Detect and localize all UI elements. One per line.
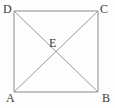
vertex-label-D: D [3, 3, 12, 15]
vertex-label-C: C [100, 3, 108, 15]
vertex-label-B: B [102, 92, 110, 104]
vertex-label-A: A [6, 92, 15, 104]
geometry-figure: D C A B E [0, 0, 115, 108]
square-diagram-svg [0, 0, 115, 108]
vertex-label-E: E [49, 37, 56, 49]
